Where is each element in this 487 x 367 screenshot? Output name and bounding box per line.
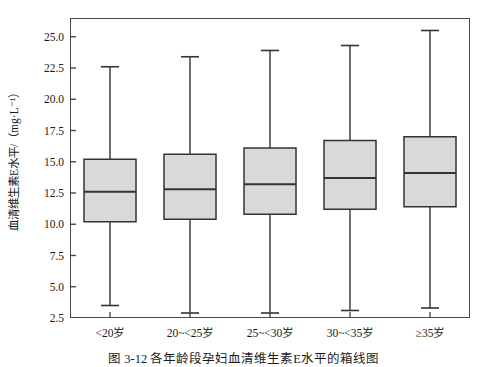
y-axis-tick-label: 20.0 bbox=[44, 93, 64, 105]
box-plot-item bbox=[404, 31, 456, 309]
y-axis-tick-label: 5.0 bbox=[50, 281, 64, 293]
box-iqr bbox=[404, 137, 456, 207]
box-iqr bbox=[244, 148, 296, 214]
x-axis-tick-label: <20岁 bbox=[96, 324, 125, 340]
box-iqr bbox=[84, 159, 136, 222]
x-axis-tick-label: ≥35岁 bbox=[416, 324, 445, 340]
y-axis-tick-label: 22.5 bbox=[44, 62, 64, 74]
box-plot-item bbox=[164, 57, 216, 313]
x-axis-tick-label: 20~<25岁 bbox=[167, 324, 214, 340]
box-plot-item bbox=[324, 46, 376, 311]
y-axis-tick-label: 10.0 bbox=[44, 218, 64, 230]
box-iqr bbox=[324, 141, 376, 210]
box-iqr bbox=[164, 154, 216, 219]
y-axis-tick-label: 7.5 bbox=[50, 250, 64, 262]
y-axis-tick-label: 12.5 bbox=[44, 187, 64, 199]
x-axis-tick-label: 30~<35岁 bbox=[327, 324, 374, 340]
box-plot-item bbox=[84, 67, 136, 306]
box-plot-item bbox=[244, 51, 296, 314]
y-axis-tick-labels: 2.55.07.510.012.515.017.520.022.525.0 bbox=[0, 0, 64, 367]
boxplot-series bbox=[70, 18, 470, 318]
figure-caption: 图 3-12 各年龄段孕妇血清维生素E水平的箱线图 bbox=[0, 348, 487, 367]
y-axis-tick-label: 25.0 bbox=[44, 31, 64, 43]
x-axis-tick-label: 25~<30岁 bbox=[247, 324, 294, 340]
y-axis-tick-label: 2.5 bbox=[50, 312, 64, 324]
y-axis-tick-label: 15.0 bbox=[44, 156, 64, 168]
y-axis-tick-label: 17.5 bbox=[44, 125, 64, 137]
x-axis-tick-labels: <20岁20~<25岁25~<30岁30~<35岁≥35岁 bbox=[0, 324, 487, 344]
plot-area bbox=[70, 18, 470, 318]
boxplot-figure: 血清维生素E水平/（mg·L⁻¹） 2.55.07.510.012.515.01… bbox=[0, 0, 487, 367]
